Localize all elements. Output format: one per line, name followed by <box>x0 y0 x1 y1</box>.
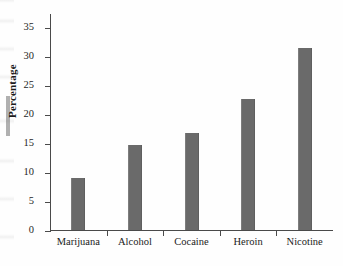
y-tick-label: 5 <box>0 196 34 207</box>
y-tick-mark <box>45 173 51 174</box>
y-tick-mark <box>45 86 51 87</box>
y-tick-label: 10 <box>0 167 34 178</box>
x-label-nicotine: Nicotine <box>287 236 323 247</box>
y-tick-mark <box>45 202 51 203</box>
bar-nicotine <box>298 48 312 230</box>
bar-chart-figure: Percentage 05101520253035 MarijuanaAlcoh… <box>0 0 343 266</box>
x-label-cocaine: Cocaine <box>174 236 208 247</box>
y-tick-label: 30 <box>0 51 34 62</box>
bar-alcohol <box>128 145 142 230</box>
x-label-alcohol: Alcohol <box>118 236 152 247</box>
x-tick-mark <box>220 231 221 236</box>
plot-area: 05101520253035 <box>50 14 333 231</box>
y-tick-label: 0 <box>0 225 34 236</box>
y-tick-label: 15 <box>0 138 34 149</box>
bar-heroin <box>241 99 255 230</box>
y-tick-mark <box>45 57 51 58</box>
x-label-marijuana: Marijuana <box>57 236 100 247</box>
x-tick-mark <box>276 231 277 236</box>
x-axis-line <box>50 230 333 231</box>
y-axis-title: Percentage <box>6 28 18 118</box>
y-tick-mark <box>45 115 51 116</box>
x-label-heroin: Heroin <box>234 236 263 247</box>
bar-marijuana <box>71 178 85 230</box>
bar-cocaine <box>185 133 199 230</box>
y-tick-label: 25 <box>0 80 34 91</box>
y-tick-label: 20 <box>0 109 34 120</box>
y-tick-mark <box>45 144 51 145</box>
y-tick-label: 35 <box>0 22 34 33</box>
y-tick-mark <box>45 28 51 29</box>
x-tick-mark <box>107 231 108 236</box>
y-axis-line <box>50 14 51 231</box>
x-tick-mark <box>163 231 164 236</box>
y-tick-mark <box>45 231 51 232</box>
